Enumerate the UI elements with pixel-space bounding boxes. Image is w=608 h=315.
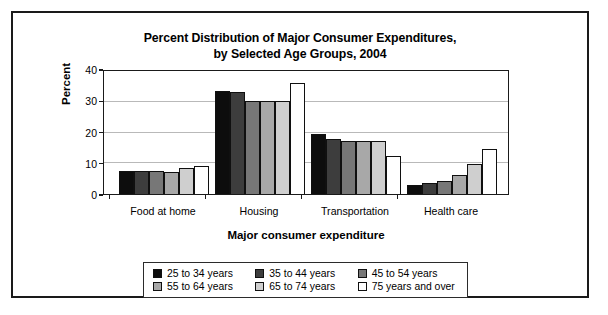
bar[interactable] xyxy=(311,134,326,194)
y-tick-label: 10 xyxy=(63,159,97,169)
legend-swatch xyxy=(255,269,264,278)
bar[interactable] xyxy=(467,164,482,194)
figure-frame: Percent Distribution of Major Consumer E… xyxy=(11,11,589,298)
bar-group xyxy=(119,71,209,194)
bar[interactable] xyxy=(482,149,497,195)
bar[interactable] xyxy=(290,83,305,194)
y-tick-label: 40 xyxy=(63,65,97,75)
legend-item[interactable]: 75 years and over xyxy=(358,281,460,292)
legend-swatch xyxy=(358,269,367,278)
legend-label: 45 to 54 years xyxy=(372,268,438,279)
plot-area xyxy=(103,70,509,195)
bar[interactable] xyxy=(452,175,467,194)
bar[interactable] xyxy=(275,101,290,194)
bar[interactable] xyxy=(245,101,260,194)
legend-label: 35 to 44 years xyxy=(269,268,335,279)
bar[interactable] xyxy=(179,168,194,194)
legend-swatch xyxy=(153,269,162,278)
x-tick-label: Housing xyxy=(240,205,279,217)
bar[interactable] xyxy=(119,171,134,194)
x-tick-label: Transportation xyxy=(321,205,389,217)
bar[interactable] xyxy=(422,183,437,194)
bar[interactable] xyxy=(149,171,164,194)
legend-label: 75 years and over xyxy=(372,281,455,292)
bar-group xyxy=(311,71,401,194)
bar[interactable] xyxy=(134,171,149,194)
y-tick-label: 30 xyxy=(63,96,97,106)
legend-label: 25 to 34 years xyxy=(167,268,233,279)
legend-item[interactable]: 45 to 54 years xyxy=(358,268,460,279)
bar[interactable] xyxy=(356,141,371,194)
chart-title: Percent Distribution of Major Consumer E… xyxy=(13,30,587,62)
legend-item[interactable]: 35 to 44 years xyxy=(255,268,357,279)
bar-group xyxy=(407,71,497,194)
legend-item[interactable]: 25 to 34 years xyxy=(153,268,255,279)
bar[interactable] xyxy=(164,172,179,194)
bar[interactable] xyxy=(260,101,275,194)
x-tick-label: Food at home xyxy=(130,205,195,217)
y-tick-label: 20 xyxy=(63,128,97,138)
x-tick-mark xyxy=(301,195,302,199)
bar-group xyxy=(215,71,305,194)
x-axis-title: Major consumer expenditure xyxy=(103,229,509,241)
bar[interactable] xyxy=(230,92,245,194)
legend-label: 65 to 74 years xyxy=(269,281,335,292)
bar[interactable] xyxy=(194,166,209,194)
legend-swatch xyxy=(153,282,162,291)
legend-swatch xyxy=(358,282,367,291)
x-tick-mark xyxy=(109,195,110,199)
bar[interactable] xyxy=(341,141,356,194)
legend: 25 to 34 years35 to 44 years45 to 54 yea… xyxy=(143,262,468,298)
chart-title-line2: by Selected Age Groups, 2004 xyxy=(13,46,587,62)
legend-swatch xyxy=(255,282,264,291)
bar[interactable] xyxy=(437,181,452,194)
legend-item[interactable]: 65 to 74 years xyxy=(255,281,357,292)
chart-title-line1: Percent Distribution of Major Consumer E… xyxy=(144,31,457,45)
legend-item[interactable]: 55 to 64 years xyxy=(153,281,255,292)
bar[interactable] xyxy=(407,185,422,194)
x-tick-mark xyxy=(397,195,398,199)
bar[interactable] xyxy=(386,156,401,194)
bar[interactable] xyxy=(326,139,341,194)
x-tick-mark xyxy=(205,195,206,199)
bar[interactable] xyxy=(371,141,386,194)
legend-grid: 25 to 34 years35 to 44 years45 to 54 yea… xyxy=(153,268,460,292)
x-tick-label: Health care xyxy=(424,205,478,217)
legend-label: 55 to 64 years xyxy=(167,281,233,292)
y-tick-label: 0 xyxy=(63,190,97,200)
bar[interactable] xyxy=(215,91,230,194)
